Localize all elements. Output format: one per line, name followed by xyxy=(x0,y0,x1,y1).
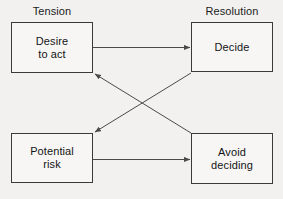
node-avoid-deciding-label: Avoid deciding xyxy=(209,146,255,172)
node-decide[interactable]: Decide xyxy=(191,22,273,72)
node-potential-risk[interactable]: Potential risk xyxy=(11,133,93,183)
edge-decide-to-risk xyxy=(95,73,191,132)
decision-diagram: Tension Resolution Desire to act Decide … xyxy=(0,0,283,199)
edge-avoid-to-desire xyxy=(95,74,191,133)
node-avoid-deciding[interactable]: Avoid deciding xyxy=(191,133,273,184)
node-potential-risk-label: Potential risk xyxy=(28,145,76,171)
node-desire-to-act[interactable]: Desire to act xyxy=(11,22,93,73)
column-label-resolution: Resolution xyxy=(191,5,273,17)
column-label-tension: Tension xyxy=(11,5,93,17)
node-decide-label: Decide xyxy=(213,41,252,54)
node-desire-to-act-label: Desire to act xyxy=(34,35,70,61)
